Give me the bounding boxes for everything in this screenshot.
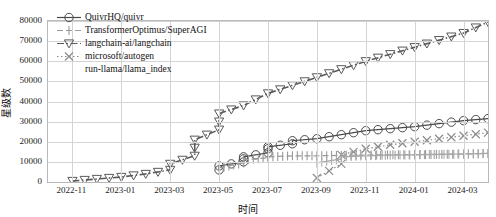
legend-item[interactable]: langchain-ai/langchain [56, 37, 206, 50]
data-point-marker [80, 176, 89, 182]
x-tick-label: 2023-09 [301, 185, 331, 195]
data-point-marker [276, 86, 285, 94]
y-tick-label: 40000 [0, 96, 42, 106]
y-tick-label: 70000 [0, 35, 42, 45]
chart-legend: QuivrHQ/quivrTransformerOptimus/SuperAGI… [56, 11, 206, 76]
data-point-marker [447, 133, 455, 141]
legend-marker-icon [56, 37, 82, 50]
y-tick-label: 10000 [0, 156, 42, 166]
legend-label: TransformerOptimus/SuperAGI [85, 24, 207, 37]
grid-line-vertical [219, 21, 220, 182]
x-tick-label: 2024-01 [399, 185, 429, 195]
x-tick-label: 2023-05 [203, 185, 233, 195]
y-tick-label: 50000 [0, 75, 42, 85]
legend-label: QuivrHQ/quivr [85, 11, 144, 24]
y-tick-label: 80000 [0, 15, 42, 25]
series-quivrhq-quivr [215, 114, 488, 174]
legend-marker-icon [56, 24, 82, 37]
legend-marker-icon [56, 11, 82, 24]
y-tick-label: 20000 [0, 136, 42, 146]
data-point-marker [325, 167, 333, 175]
legend-label: run-llama/llama_index [85, 63, 172, 76]
x-axis-title: 时间 [238, 201, 258, 216]
data-point-marker [484, 129, 488, 137]
legend-marker-icon [56, 63, 82, 76]
data-point-marker [92, 175, 101, 182]
legend-label: microsoft/autogen [85, 50, 154, 63]
legend-item[interactable]: TransformerOptimus/SuperAGI [56, 24, 206, 37]
grid-line-vertical [268, 21, 269, 182]
legend-item[interactable]: QuivrHQ/quivr [56, 11, 206, 24]
legend-item[interactable]: run-llama/llama_index [56, 63, 206, 76]
x-tick-label: 2024-03 [448, 185, 478, 195]
chart-container: 星级数 时间 010000200003000040000500006000070… [0, 0, 496, 217]
x-tick-label: 2022-11 [57, 185, 87, 195]
grid-line-vertical [415, 21, 416, 182]
grid-line-vertical [366, 21, 367, 182]
legend-item[interactable]: microsoft/autogen [56, 50, 206, 63]
x-tick-label: 2023-07 [252, 185, 282, 195]
legend-marker-icon [56, 50, 82, 63]
x-tick-label: 2023-01 [105, 185, 135, 195]
grid-line-vertical [317, 21, 318, 182]
y-tick-label: 0 [0, 176, 42, 186]
x-tick-label: 2023-03 [154, 185, 184, 195]
legend-label: langchain-ai/langchain [85, 37, 172, 50]
x-tick-label: 2023-11 [350, 185, 380, 195]
y-tick-label: 60000 [0, 55, 42, 65]
y-tick-label: 30000 [0, 116, 42, 126]
grid-line-vertical [464, 21, 465, 182]
